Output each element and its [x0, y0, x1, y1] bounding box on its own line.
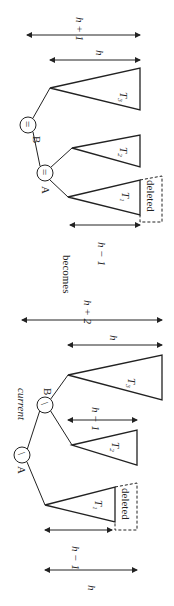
subtree-t2-label: T2	[116, 147, 130, 157]
node-b-balance: =	[22, 121, 34, 127]
subtree-t1-label: T1	[91, 500, 105, 510]
after-tree: T3 T2 T1 deleted = B = A h + 1 h h − 1	[20, 17, 162, 266]
height-total-label: h + 1	[74, 17, 86, 41]
subtree-t2	[72, 430, 137, 465]
before-tree: h + 2 current T3 T2 T1 deleted \ B \ A	[14, 300, 162, 591]
avl-deletion-diagram: T3 T2 T1 deleted = B = A h + 1 h h − 1 b…	[0, 0, 174, 606]
node-b: \ B	[37, 388, 54, 413]
height-a-left-label: h	[86, 585, 98, 591]
node-b-label: B	[31, 136, 43, 143]
node-a-label: A	[40, 186, 52, 194]
node-a-label: A	[16, 466, 28, 474]
edge-b-t2	[50, 410, 72, 445]
height-t2-label: h − 1	[90, 407, 102, 431]
subtree-t3-label: T3	[124, 378, 138, 388]
node-a: = A	[37, 165, 53, 194]
node-b-label: B	[42, 388, 54, 395]
node-a-balance: =	[39, 169, 51, 175]
edge-a-t2	[50, 148, 72, 168]
deleted-label: deleted	[145, 180, 157, 212]
subtree-t3	[50, 68, 140, 110]
height-t3-label: h	[108, 335, 120, 341]
current-pointer-label: current	[16, 388, 28, 421]
subtree-t3	[68, 355, 162, 400]
subtree-t3-label: T3	[116, 92, 130, 102]
subtree-t1-label: T1	[118, 192, 132, 202]
subtree-t2-label: T2	[108, 442, 122, 452]
node-a: \ A	[14, 447, 30, 474]
node-b: = B	[20, 117, 43, 143]
deleted-label: deleted	[120, 488, 132, 520]
height-total-label: h + 2	[82, 300, 94, 324]
edge-a-t1	[27, 462, 45, 505]
height-t1-label: h − 1	[96, 242, 108, 266]
becomes-label: becomes	[61, 255, 73, 293]
height-t3-label: h	[94, 50, 106, 56]
edge-b-t3	[33, 88, 50, 118]
height-t1-label: h − 1	[70, 546, 82, 570]
